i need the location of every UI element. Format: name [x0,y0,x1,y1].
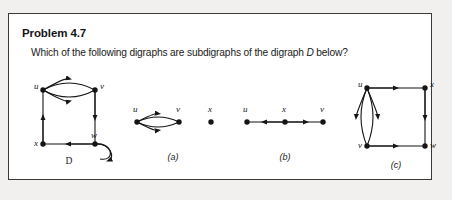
choice-a-svg: u v x [127,102,227,146]
figure-choice-c: u x v w (c) [353,76,449,168]
question-suffix: below? [314,47,348,58]
vertex-b-v [320,119,325,124]
vertex-label-c-v: v [358,140,362,150]
vertex-v [92,87,97,92]
figure-choice-b: u x v (b) [237,102,347,162]
vertex-label-c-x: x [429,79,434,89]
figure-caption-d: D [49,156,89,166]
vertex-label-b-v: v [320,104,324,114]
vertex-label-w: w [91,130,97,140]
vertex-label-v: v [100,81,104,91]
figure-choice-a: u v x (a) [127,102,227,162]
figure-digraph-d: u v x w D [21,76,121,168]
vertex-label-c-w: w [430,140,436,150]
problem-card: Problem 4.7 Which of the following digra… [8,13,432,180]
vertex-c-w [422,143,427,148]
vertex-label-a-u: u [133,104,138,114]
vertex-label-a-x: x [207,104,212,114]
vertex-label-b-u: u [243,104,248,114]
problem-figure-page: Problem 4.7 Which of the following digra… [0,0,452,200]
edge-a-u-to-v-lower [137,122,179,127]
vertex-c-u [364,85,369,90]
figure-caption-b: (b) [265,152,305,162]
vertex-label-b-x: x [281,104,286,114]
edge-c-u-to-v-right [367,88,373,146]
choice-c-svg: u x v w [353,76,449,162]
problem-question: Which of the following digraphs are subd… [31,47,348,58]
vertex-u [40,87,45,92]
question-prefix: Which of the following digraphs are subd… [31,47,306,58]
choice-b-svg: u x v [237,102,347,146]
vertex-x [40,141,45,146]
vertex-label-x: x [33,138,38,148]
digraph-d-svg: u v x w [21,76,121,168]
question-digraph-symbol: D [306,47,313,58]
edge-u-to-v-upper [43,83,95,90]
vertex-a-u [134,119,139,124]
vertex-w [92,141,97,146]
vertex-a-v [176,119,181,124]
edge-u-to-v-lower [43,90,95,97]
edge-w-self-loop [95,144,110,159]
vertex-label-c-u: u [358,79,363,89]
edge-c-u-to-v-left [361,88,367,146]
page-title: Problem 4.7 [22,27,86,39]
vertex-label-a-v: v [176,104,180,114]
vertex-label-u: u [34,81,39,91]
vertex-a-x [208,119,213,124]
edge-w-self-loop-arrow [95,144,112,161]
figure-caption-c: (c) [376,160,416,170]
edge-a-u-to-v-upper [137,117,179,122]
vertex-c-v [364,143,369,148]
vertex-b-x [282,119,287,124]
vertex-c-x [422,85,427,90]
figure-caption-a: (a) [153,152,193,162]
vertex-b-u [244,119,249,124]
